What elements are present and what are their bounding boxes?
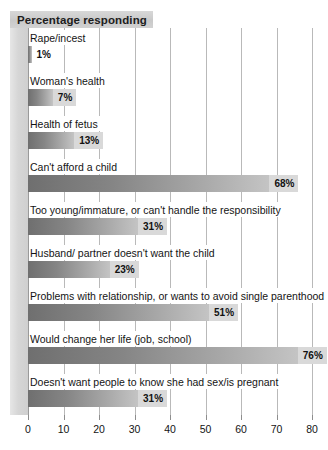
x-tick-label: 30	[129, 423, 141, 435]
bar	[28, 347, 298, 364]
bar	[28, 390, 138, 407]
x-tick-label: 80	[306, 423, 318, 435]
bar-container: 76%	[28, 347, 327, 364]
bar-container: 7%	[28, 89, 76, 106]
bar-row: Rape/incest1%	[28, 28, 312, 71]
bar-container: 1%	[28, 46, 55, 63]
bar-value-label: 31%	[138, 390, 167, 407]
category-label: Husband/ partner doesn't want the child	[30, 245, 219, 260]
bar-container: 23%	[28, 261, 139, 278]
bar-chart: Percentage responding Rape/incest1%Woman…	[0, 0, 328, 450]
bar-value-label: 7%	[53, 89, 76, 106]
bar-rows: Rape/incest1%Woman's health7%Health of f…	[28, 28, 312, 415]
bar-value-label: 76%	[298, 347, 327, 364]
chart-title-band: Percentage responding	[10, 11, 153, 28]
bar-value-label: 51%	[209, 304, 238, 321]
bar-value-label: 68%	[269, 175, 298, 192]
bar	[28, 132, 74, 149]
category-label: Rape/incest	[30, 30, 89, 45]
x-tick-mark	[170, 415, 171, 420]
bar-container: 31%	[28, 218, 167, 235]
bar-row: Would change her life (job, school)76%	[28, 329, 312, 372]
category-label: Woman's health	[30, 73, 109, 88]
x-tick-label: 60	[235, 423, 247, 435]
bar-row: Woman's health7%	[28, 71, 312, 114]
x-tick-label: 40	[164, 423, 176, 435]
left-gutter-band	[10, 28, 28, 415]
bar	[28, 89, 53, 106]
x-tick-mark	[312, 415, 313, 420]
x-tick-mark	[135, 415, 136, 420]
bar	[28, 175, 269, 192]
bar-value-label: 13%	[74, 132, 103, 149]
category-label: Doesn't want people to know she had sex/…	[30, 374, 282, 389]
category-label: Health of fetus	[30, 116, 102, 131]
x-tick-label: 50	[200, 423, 212, 435]
bar	[28, 218, 138, 235]
plot-area: Rape/incest1%Woman's health7%Health of f…	[28, 28, 312, 415]
x-tick-mark	[99, 415, 100, 420]
category-label: Too young/immature, or can't handle the …	[30, 202, 285, 217]
bar-row: Doesn't want people to know she had sex/…	[28, 372, 312, 415]
category-label: Would change her life (job, school)	[30, 331, 195, 346]
category-label: Can't afford a child	[30, 159, 121, 174]
x-tick-mark	[28, 415, 29, 420]
x-tick-label: 10	[58, 423, 70, 435]
bar-row: Health of fetus13%	[28, 114, 312, 157]
bar-container: 13%	[28, 132, 103, 149]
bar	[28, 261, 110, 278]
x-tick-mark	[206, 415, 207, 420]
bar	[28, 304, 209, 321]
bar-row: Too young/immature, or can't handle the …	[28, 200, 312, 243]
bar-container: 31%	[28, 390, 167, 407]
bar-row: Problems with relationship, or wants to …	[28, 286, 312, 329]
bar-row: Husband/ partner doesn't want the child2…	[28, 243, 312, 286]
x-tick-label: 0	[25, 423, 31, 435]
chart-title: Percentage responding	[17, 14, 147, 26]
bar-container: 68%	[28, 175, 298, 192]
x-tick-mark	[64, 415, 65, 420]
bar-value-label: 23%	[110, 261, 139, 278]
x-tick-mark	[241, 415, 242, 420]
bar-container: 51%	[28, 304, 238, 321]
category-label: Problems with relationship, or wants to …	[30, 288, 328, 303]
bar-row: Can't afford a child68%	[28, 157, 312, 200]
x-tick-mark	[277, 415, 278, 420]
x-axis: 01020304050607080	[28, 415, 312, 445]
x-tick-label: 70	[271, 423, 283, 435]
bar-value-label: 31%	[138, 218, 167, 235]
bar-value-label: 1%	[32, 46, 55, 63]
x-tick-label: 20	[93, 423, 105, 435]
